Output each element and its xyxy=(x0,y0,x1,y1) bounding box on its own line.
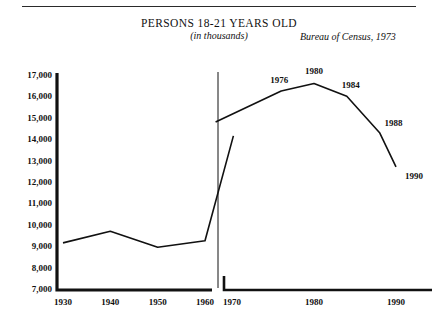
data-point-label: 1990 xyxy=(405,171,423,181)
data-point-label: 1988 xyxy=(385,118,403,128)
y-axis-tick-label: 12,000 xyxy=(0,177,52,187)
y-axis-tick-label: 8,000 xyxy=(0,263,52,273)
y-axis-tick-label: 13,000 xyxy=(0,156,52,166)
data-line-historical xyxy=(63,136,233,247)
x-axis-tick-label: 1990 xyxy=(387,297,405,307)
x-axis-tick-label: 1950 xyxy=(149,297,167,307)
x-axis-tick-label: 1940 xyxy=(101,297,119,307)
x-axis-tick-label: 1970 xyxy=(223,297,241,307)
left-panel-axis xyxy=(57,73,212,290)
y-axis-tick-label: 7,000 xyxy=(0,284,52,294)
y-axis-tick-label: 14,000 xyxy=(0,134,52,144)
y-axis-tick-label: 16,000 xyxy=(0,91,52,101)
x-axis-tick-label: 1930 xyxy=(54,297,72,307)
x-axis-tick-label: 1980 xyxy=(305,297,323,307)
chart-page: PERSONS 18-21 YEARS OLD (in thousands) B… xyxy=(0,0,438,333)
right-panel-axis xyxy=(224,276,432,290)
data-line-projected xyxy=(216,84,396,167)
data-point-label: 1976 xyxy=(270,75,288,85)
x-axis-tick-label: 1960 xyxy=(196,297,214,307)
chart-plot-area xyxy=(0,0,438,333)
y-axis-tick-label: 11,000 xyxy=(0,198,52,208)
y-axis-tick-label: 10,000 xyxy=(0,220,52,230)
y-axis-tick-label: 15,000 xyxy=(0,113,52,123)
y-axis-tick-label: 9,000 xyxy=(0,241,52,251)
data-point-label: 1984 xyxy=(342,80,360,90)
data-point-label: 1980 xyxy=(305,66,323,76)
y-axis-tick-label: 17,000 xyxy=(0,70,52,80)
